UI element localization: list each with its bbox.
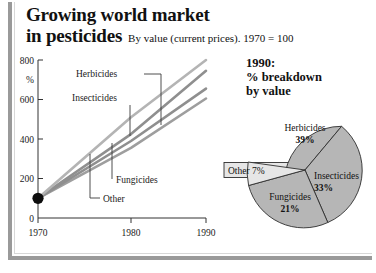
pie-chart-graphic: Herbicides 39% Insecticides 33% Fungicid…: [214, 100, 372, 244]
pie-value-insecticides: 33%: [314, 183, 333, 193]
pie-value-fungicides: 21%: [281, 204, 300, 214]
pie-chart-panel: 1990: % breakdown by value Herbicides 39…: [228, 56, 372, 246]
line-chart-svg: 800 600 400 200 0 % 1970 1980 1990: [14, 50, 224, 245]
x-tick-label-1990: 1990: [197, 228, 216, 238]
pie-label-other: Other 7%: [228, 166, 265, 176]
title-line-2: in pesticides: [26, 25, 122, 46]
pie-heading-line-3: by value: [246, 84, 322, 98]
pie-label-herbicides: Herbicides: [284, 123, 325, 133]
x-tick-label-1980: 1980: [122, 228, 141, 238]
line-chart: 800 600 400 200 0 % 1970 1980 1990: [14, 50, 224, 245]
y-tick-label-800: 800: [20, 56, 35, 66]
pie-chart-heading: 1990: % breakdown by value: [246, 56, 322, 98]
y-axis-unit-label: %: [26, 75, 34, 85]
series-label-insecticides: Insecticides: [72, 93, 117, 103]
title-subtitle: By value (current prices). 1970 = 100: [128, 32, 293, 44]
pie-chart-svg: Herbicides 39% Insecticides 33% Fungicid…: [214, 100, 372, 240]
y-tick-label-200: 200: [20, 174, 35, 184]
series-label-other: Other: [103, 194, 125, 204]
series-label-fungicides: Fungicides: [116, 175, 158, 185]
y-tick-label-0: 0: [29, 214, 34, 224]
x-tick-label-1970: 1970: [29, 228, 48, 238]
origin-marker-dot: [32, 193, 43, 204]
page-left-rule: [8, 2, 12, 260]
y-tick-label-400: 400: [20, 135, 35, 145]
pie-heading-line-1: 1990:: [246, 56, 322, 70]
page-title: Growing world market in pesticides By va…: [26, 4, 366, 46]
pie-value-herbicides: 39%: [296, 135, 315, 145]
pie-heading-line-2: % breakdown: [246, 70, 322, 84]
page-bottom-rule: [8, 256, 372, 260]
pie-label-fungicides: Fungicides: [269, 192, 311, 202]
title-line-1: Growing world market: [26, 4, 366, 25]
pie-label-insecticides: Insecticides: [314, 171, 359, 181]
series-label-herbicides: Herbicides: [76, 69, 117, 79]
y-tick-label-600: 600: [20, 95, 35, 105]
title-line-2-row: in pesticides By value (current prices).…: [26, 25, 366, 46]
